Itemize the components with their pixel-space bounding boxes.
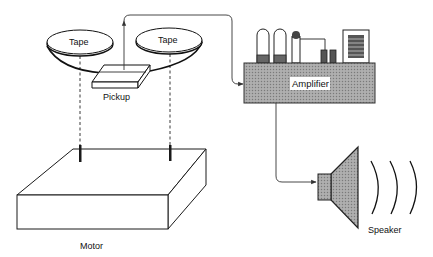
vacuum-tube-icon xyxy=(257,29,269,63)
vacuum-tube-icon xyxy=(274,29,286,63)
speaker-label: Speaker xyxy=(368,225,402,235)
pickup-head xyxy=(92,65,150,88)
speaker-icon xyxy=(318,147,358,228)
motor-spindle-right xyxy=(169,145,172,161)
motor-spindle-left xyxy=(79,145,82,162)
small-tube-icon xyxy=(292,31,300,63)
transformer-icon xyxy=(343,30,369,63)
tape-recorder-diagram: Motor Tape Tape Pickup xyxy=(0,0,433,257)
capacitor-icon xyxy=(321,50,336,63)
amplifier-label: Amplifier xyxy=(292,78,329,89)
wire-amplifier-to-speaker xyxy=(276,103,316,182)
motor xyxy=(17,145,206,229)
sound-waves-icon xyxy=(371,161,417,214)
pickup-label: Pickup xyxy=(103,92,130,102)
amplifier xyxy=(244,29,375,103)
motor-label: Motor xyxy=(80,241,103,251)
tape-left-label: Tape xyxy=(69,37,89,47)
tape-right-label: Tape xyxy=(158,35,178,45)
